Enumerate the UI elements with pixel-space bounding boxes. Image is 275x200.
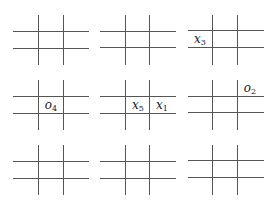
grid-line (188, 177, 264, 178)
grid-line (38, 145, 39, 195)
grid-line (100, 161, 176, 162)
grid-line (212, 145, 213, 195)
mark-o2: o2 (238, 81, 262, 99)
grid-line (38, 15, 39, 65)
grid-line (63, 145, 64, 195)
grid-line (100, 178, 176, 179)
mark-x3: x3 (188, 32, 212, 50)
grid-line (188, 160, 264, 161)
grid-line (63, 15, 64, 65)
board-7 (13, 145, 89, 195)
mark-x1: x1 (150, 98, 174, 116)
grid-line (212, 15, 213, 65)
board-4: o4 (13, 80, 89, 130)
grid-line (125, 15, 126, 65)
grid-line (13, 161, 89, 162)
grid-line (13, 96, 89, 97)
board-8 (100, 145, 176, 195)
mark-x5: x5 (126, 98, 150, 116)
grid-line (13, 48, 89, 49)
grid-line (100, 47, 176, 48)
board-6: o2 (188, 80, 264, 130)
board-3: x3 (188, 15, 264, 65)
mark-o4: o4 (39, 98, 63, 116)
board-5: x5 x1 (100, 80, 176, 130)
board-9 (188, 145, 264, 195)
grid-line (237, 15, 238, 65)
grid-line (13, 31, 89, 32)
grid-line (100, 31, 176, 32)
grid-line (125, 145, 126, 195)
board-1 (13, 15, 89, 65)
grid-line (149, 15, 150, 65)
grid-line (188, 112, 264, 113)
grid-line (13, 178, 89, 179)
grid-line (237, 145, 238, 195)
grid-line (100, 96, 176, 97)
grid-line (149, 145, 150, 195)
grid-line (63, 80, 64, 130)
board-2 (100, 15, 176, 65)
grid-line (212, 80, 213, 130)
grid-line (188, 30, 264, 31)
